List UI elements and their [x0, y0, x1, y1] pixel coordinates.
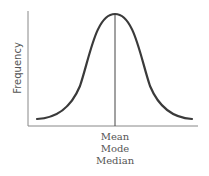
x-axis-labels: Mean Mode Median: [96, 131, 134, 167]
y-axis-label: Frequency: [12, 42, 23, 94]
mean-label: Mean: [96, 131, 134, 143]
mode-label: Mode: [96, 143, 134, 155]
median-label: Median: [96, 155, 134, 167]
